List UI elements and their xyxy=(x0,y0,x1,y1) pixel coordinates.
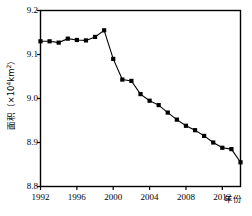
data-point-marker xyxy=(38,39,42,43)
data-point-marker xyxy=(66,37,70,41)
data-markers xyxy=(38,28,242,164)
data-point-marker xyxy=(102,28,106,32)
data-point-marker xyxy=(147,99,151,103)
chart-container: 面积（×104km2） 8.88.99.09.19.2 199219962000… xyxy=(0,0,252,216)
data-point-marker xyxy=(184,124,188,128)
data-point-marker xyxy=(84,38,88,42)
plot-area xyxy=(0,0,252,216)
axis-frame xyxy=(41,11,241,187)
data-line xyxy=(41,30,241,162)
data-point-marker xyxy=(57,41,61,45)
data-point-marker xyxy=(238,160,242,164)
data-point-marker xyxy=(175,118,179,122)
data-point-marker xyxy=(47,39,51,43)
data-point-marker xyxy=(129,79,133,83)
data-point-marker xyxy=(193,128,197,132)
data-point-marker xyxy=(166,110,170,114)
data-point-marker xyxy=(138,92,142,96)
data-point-marker xyxy=(93,35,97,39)
data-point-marker xyxy=(229,147,233,151)
data-point-marker xyxy=(157,103,161,107)
data-point-marker xyxy=(111,57,115,61)
data-point-marker xyxy=(120,77,124,81)
data-point-marker xyxy=(202,134,206,138)
tick-marks xyxy=(37,11,222,191)
data-point-marker xyxy=(220,146,224,150)
data-point-marker xyxy=(75,38,79,42)
data-point-marker xyxy=(211,140,215,144)
